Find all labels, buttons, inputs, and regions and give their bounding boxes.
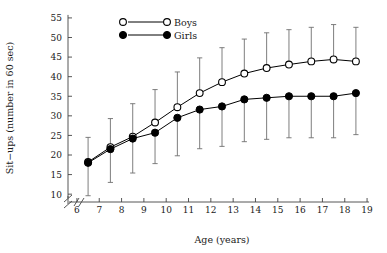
data-point-boys <box>330 56 337 63</box>
data-point-girls <box>129 135 136 142</box>
x-axis-tick-label: 17 <box>317 205 329 215</box>
x-axis-tick-label: 6 <box>74 205 80 215</box>
y-axis-tick-label: 50 <box>51 33 63 43</box>
y-axis-tick-label: 55 <box>51 13 63 23</box>
data-point-girls <box>218 103 225 110</box>
y-axis-tick-label: 35 <box>51 92 63 102</box>
x-axis-tick-label: 9 <box>141 205 147 215</box>
sit-ups-vs-age-line-chart: 10152025303540455055 6789101112131415161… <box>0 0 387 253</box>
data-point-boys <box>286 61 293 68</box>
legend-marker-girls <box>119 31 126 38</box>
x-axis-tick-label: 16 <box>294 205 306 215</box>
x-axis-tick-label: 7 <box>96 205 102 215</box>
x-axis-tick-label: 15 <box>272 205 284 215</box>
data-point-girls <box>285 93 292 100</box>
x-axis-tick-label: 10 <box>160 205 172 215</box>
x-axis-title: Age (years) <box>193 234 249 245</box>
data-point-boys <box>174 104 181 111</box>
data-point-boys <box>152 119 159 126</box>
data-point-boys <box>241 70 248 77</box>
data-point-boys <box>196 90 203 97</box>
y-axis-tick-label: 15 <box>51 170 63 180</box>
y-axis-tick-label: 45 <box>51 52 63 62</box>
y-axis-tick-label: 25 <box>51 131 63 141</box>
y-axis-tick-label: 10 <box>51 190 63 200</box>
data-point-boys <box>308 58 315 65</box>
y-axis-title: Sit−ups (number in 60 sec) <box>4 42 15 174</box>
x-axis-tick-label: 19 <box>361 205 373 215</box>
x-axis-tick-label: 14 <box>250 205 262 215</box>
data-point-girls <box>196 106 203 113</box>
data-point-boys <box>219 79 226 86</box>
legend-marker-boys <box>164 19 171 26</box>
data-point-girls <box>352 90 359 97</box>
x-axis-tick-label: 13 <box>227 205 239 215</box>
y-axis-tick-label: 20 <box>51 150 63 160</box>
data-point-girls <box>263 94 270 101</box>
legend-label-girls: Girls <box>174 30 197 41</box>
data-point-girls <box>151 129 158 136</box>
y-axis-tick-label: 40 <box>51 72 63 82</box>
chart-figure: 10152025303540455055 6789101112131415161… <box>0 0 387 253</box>
legend-marker-girls <box>163 31 170 38</box>
x-axis-tick-label: 12 <box>205 205 216 215</box>
data-point-girls <box>174 114 181 121</box>
data-point-girls <box>330 93 337 100</box>
data-point-boys <box>263 65 270 72</box>
data-point-girls <box>84 159 91 166</box>
x-axis-tick-label: 11 <box>183 205 194 215</box>
legend-label-boys: Boys <box>174 17 197 28</box>
data-point-girls <box>308 93 315 100</box>
x-axis-tick-label: 18 <box>339 205 351 215</box>
y-axis-tick-label: 30 <box>51 111 63 121</box>
data-point-girls <box>241 96 248 103</box>
data-point-boys <box>353 58 360 65</box>
x-axis-tick-label: 8 <box>119 205 125 215</box>
data-point-girls <box>107 146 114 153</box>
legend-marker-boys <box>120 19 127 26</box>
